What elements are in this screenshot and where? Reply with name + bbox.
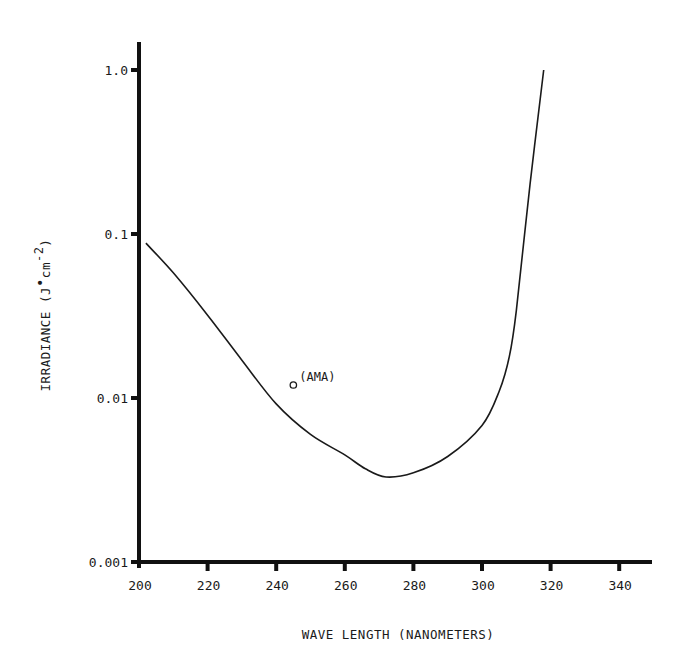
x-axis-title: WAVE LENGTH (NANOMETERS)	[302, 627, 495, 642]
y-axis-title-main: IRRADIANCE (J	[38, 287, 53, 391]
y-tick-label: 0.1	[105, 227, 128, 242]
x-tick-label: 220	[197, 578, 220, 593]
x-tick-label: 300	[471, 578, 494, 593]
x-tick-label: 340	[608, 578, 631, 593]
x-tick-label: 260	[334, 578, 357, 593]
data-series-curve	[146, 70, 544, 477]
y-axis-title-unit: cm	[38, 262, 53, 278]
y-axis-title-exp: -2	[32, 247, 46, 262]
x-axis-ticks: 200220240260280300320340	[128, 562, 632, 593]
ama-point-marker	[290, 382, 296, 388]
y-axis-ticks: 0.0010.010.11.0	[89, 63, 139, 570]
ama-annotation-label: (AMA)	[299, 370, 335, 384]
y-tick-label: 1.0	[105, 63, 128, 78]
y-tick-label: 0.001	[89, 555, 128, 570]
y-tick-label: 0.01	[97, 391, 128, 406]
y-axis-title-close: )	[38, 239, 53, 247]
y-axis-title-dot: •	[32, 278, 48, 287]
x-tick-label: 200	[128, 578, 151, 593]
data-points: (AMA)	[290, 370, 335, 388]
x-tick-label: 320	[540, 578, 563, 593]
x-tick-label: 280	[403, 578, 426, 593]
x-tick-label: 240	[265, 578, 288, 593]
y-axis-title: IRRADIANCE (J•cm-2)	[32, 239, 53, 392]
axes	[137, 42, 652, 568]
chart: 0.0010.010.11.0 200220240260280300320340…	[0, 0, 681, 662]
